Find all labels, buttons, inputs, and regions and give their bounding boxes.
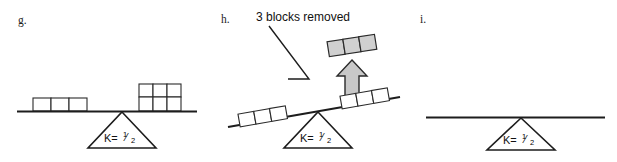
panel-i: i. K= 1 ⁄ 2 xyxy=(420,13,605,150)
panel-i-fulcrum xyxy=(487,118,555,150)
balance-scale-figure: g. K= 1 ⁄ 2 h. 3 blocks xyxy=(0,0,617,162)
panel-h-label: h. xyxy=(221,13,230,25)
panel-g-right-blocks xyxy=(139,84,181,111)
panel-g-left-blocks xyxy=(33,98,87,111)
panel-g-label: g. xyxy=(18,14,27,27)
panel-i-label: i. xyxy=(420,13,426,25)
panel-h-leader-line xyxy=(269,26,309,79)
panel-h-k-denominator: 2 xyxy=(327,136,331,145)
panel-g-k-denominator: 2 xyxy=(131,136,135,145)
panel-i-k-text: K= xyxy=(503,134,517,146)
panel-h-callout-text: 3 blocks removed xyxy=(256,10,350,24)
panel-h-left-blocks xyxy=(238,106,288,127)
panel-g-k-text: K= xyxy=(104,132,118,144)
panel-g-fulcrum xyxy=(88,112,156,148)
panel-h-k-text: K= xyxy=(300,132,314,144)
panel-h-removed-blocks xyxy=(327,34,377,56)
panel-h-fulcrum xyxy=(284,112,352,148)
panel-g: g. K= 1 ⁄ 2 xyxy=(17,14,197,148)
panel-h: h. 3 blocks removed K= xyxy=(221,10,400,148)
panel-i-k-denominator: 2 xyxy=(530,138,534,147)
